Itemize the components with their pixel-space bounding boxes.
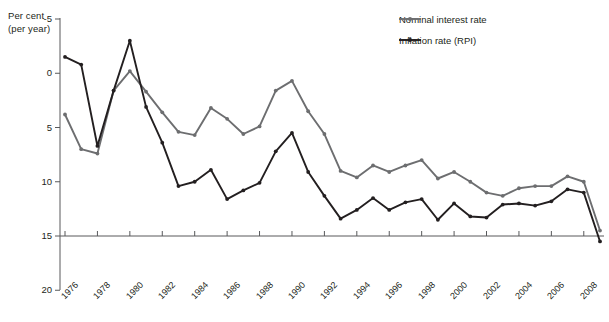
series-line-inflation-rate-rpi [65,41,600,242]
series-point [193,180,197,184]
series-point [96,152,100,156]
series-point [582,180,586,184]
series-point [339,217,343,221]
series-point [598,240,602,244]
series-point [79,147,83,151]
series-point [533,184,537,188]
series-point [144,90,148,94]
series-point [306,170,310,174]
series-point [322,132,326,136]
series-point [387,208,391,212]
series-point [322,194,326,198]
series-point [225,117,229,121]
series-point [128,69,132,73]
series-point [452,202,456,206]
series-point [404,164,408,168]
series-point [241,132,245,136]
series-point [485,216,489,220]
series-point [387,170,391,174]
series-point [371,196,375,200]
chart-plot-area [0,0,609,322]
series-point [339,169,343,173]
series-point [258,181,262,185]
series-point [501,194,505,198]
series-point [355,208,359,212]
series-point [452,170,456,174]
series-point [517,186,521,190]
series-point [371,164,375,168]
series-point [144,105,148,109]
series-point [290,79,294,83]
series-point [177,130,181,134]
series-point [501,203,505,207]
series-point [436,177,440,181]
series-point [533,204,537,208]
series-point [468,215,472,219]
series-point [209,168,213,172]
series-point [517,202,521,206]
series-point [209,106,213,110]
series-point [566,187,570,191]
series-point [241,189,245,193]
series-point [598,229,602,233]
series-point [160,141,164,145]
series-point [177,184,181,188]
series-point [404,200,408,204]
series-point [63,113,67,117]
series-point [274,89,278,93]
series-point [274,149,278,153]
series-point [420,197,424,201]
series-point [549,184,553,188]
series-point [96,144,100,148]
series-point [306,109,310,113]
series-point [193,133,197,137]
series-point [128,39,132,43]
series-point [160,110,164,114]
chart-root: Per cent (per year) 20151050-5 197619781… [0,0,609,322]
series-point [79,63,83,67]
series-point [112,89,116,93]
series-point [258,125,262,129]
series-point [582,191,586,195]
series-point [566,174,570,178]
series-point [485,191,489,195]
series-point [420,158,424,162]
series-point [225,197,229,201]
series-point [468,180,472,184]
series-point [63,55,67,59]
series-point [355,176,359,180]
series-point [290,131,294,135]
series-point [436,218,440,222]
series-point [549,199,553,203]
